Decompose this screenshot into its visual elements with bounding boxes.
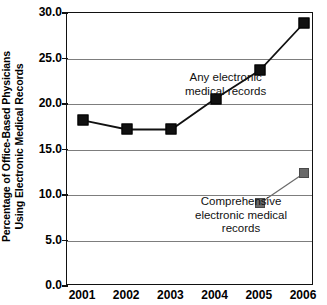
y-axis-tick-label: 20.0 <box>20 97 62 109</box>
data-point-marker <box>299 18 310 29</box>
x-axis-tick-labels: 200120022003200420052006 <box>0 288 327 305</box>
y-axis-tick-label: 15.0 <box>20 143 62 155</box>
annotation-comprehensive-line-2: electronic medical <box>195 209 287 223</box>
y-axis-tick-label: 10.0 <box>20 188 62 200</box>
annotation-comprehensive-line-3: records <box>195 222 287 236</box>
chart-container: Percentage of Office-Based Physicians Us… <box>0 0 327 305</box>
y-axis-tick-label: 25.0 <box>20 52 62 64</box>
data-point-marker <box>78 115 89 126</box>
y-axis-tick-label: 5.0 <box>20 234 62 246</box>
y-axis-tick-label: 30.0 <box>20 6 62 18</box>
annotation-any-line-2: medical records <box>185 85 266 99</box>
data-point-marker <box>166 124 177 135</box>
series-lines <box>67 13 314 286</box>
x-axis-tick-label: 2006 <box>280 288 326 303</box>
series-layer <box>67 13 312 284</box>
annotation-comprehensive-electronic-medical-records: Comprehensive electronic medical records <box>195 195 287 236</box>
plot-area: Any electronic medical records Comprehen… <box>66 12 313 285</box>
x-axis-tick-label: 2003 <box>147 288 193 303</box>
annotation-any-electronic-medical-records: Any electronic medical records <box>185 71 266 98</box>
data-point-marker <box>299 168 309 178</box>
x-axis-tick-label: 2004 <box>192 288 238 303</box>
y-axis-tick-labels: 0.05.010.015.020.025.030.0 <box>20 0 62 292</box>
x-axis-tick-label: 2001 <box>59 288 105 303</box>
annotation-comprehensive-line-1: Comprehensive <box>195 195 287 209</box>
annotation-any-line-1: Any electronic <box>185 71 266 85</box>
x-axis-tick-label: 2002 <box>103 288 149 303</box>
data-point-marker <box>122 124 133 135</box>
x-axis-tick-label: 2005 <box>236 288 282 303</box>
y-axis-title-line-1: Percentage of Office-Based Physicians <box>1 50 14 241</box>
